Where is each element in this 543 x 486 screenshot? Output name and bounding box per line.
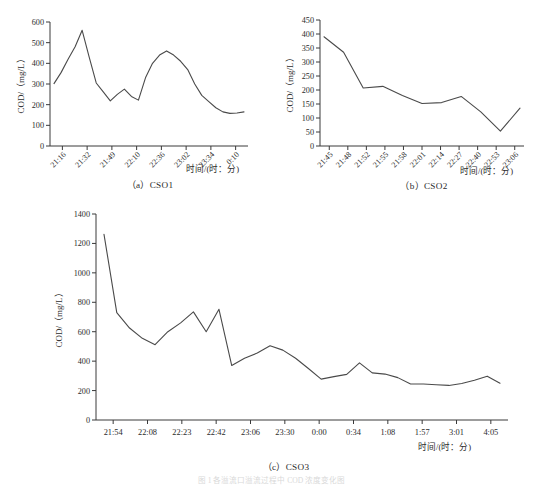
y-tick-label: 100 — [32, 121, 44, 130]
cso1-series-line — [54, 30, 244, 113]
y-tick-label: 150 — [302, 100, 314, 109]
y-tick-label: 200 — [32, 101, 44, 110]
y-tick-label: 1400 — [74, 210, 90, 219]
figure-caption: 图 1 各溢流口溢流过程中 COD 浓度变化图 — [0, 474, 543, 485]
y-tick-label: 200 — [78, 387, 90, 396]
y-tick-label: 300 — [302, 58, 314, 67]
cso3-y-axis-title: COD/（mg/L） — [54, 288, 64, 347]
cso3-y-ticks: 0200400600800100012001400 — [74, 210, 96, 425]
y-tick-label: 1200 — [74, 239, 90, 248]
cso2-caption: （b）CSO2 — [400, 181, 447, 191]
x-tick-label: 1:08 — [380, 428, 395, 437]
chart-cso2: 050100150200250300350400450 21:4521:4821… — [272, 0, 543, 196]
y-tick-label: 400 — [32, 59, 44, 68]
x-tick-label: 21:32 — [73, 150, 92, 169]
cso3-x-axis-title: 时间/(时：分) — [418, 441, 471, 452]
x-tick-label: 22:23 — [172, 428, 191, 437]
x-tick-label: 0:34 — [346, 428, 362, 437]
y-tick-label: 0 — [40, 142, 44, 151]
cso3-svg: 0200400600800100012001400 21:5422:0822:2… — [18, 198, 525, 486]
y-tick-label: 250 — [302, 72, 314, 81]
y-tick-label: 400 — [78, 357, 90, 366]
y-tick-label: 600 — [32, 18, 44, 27]
x-tick-label: 3:01 — [449, 428, 464, 437]
y-tick-label: 500 — [32, 39, 44, 48]
x-tick-label: 22:36 — [148, 150, 167, 169]
cso1-x-axis-title: 时间/(时：分) — [186, 163, 239, 174]
cso2-y-ticks: 050100150200250300350400450 — [302, 16, 320, 151]
y-tick-label: 800 — [78, 298, 90, 307]
cso1-y-axis-title: COD/（mg/L） — [16, 54, 26, 113]
x-tick-label: 21:52 — [353, 150, 372, 169]
cso2-series-line — [324, 37, 520, 131]
x-tick-label: 1:57 — [415, 428, 430, 437]
y-tick-label: 0 — [86, 416, 90, 425]
x-tick-label: 21:54 — [104, 428, 124, 437]
y-tick-label: 100 — [302, 114, 314, 123]
cso2-y-axis-title: COD/（mg/L） — [285, 53, 295, 112]
cso2-x-axis-title: 时间/(时：分) — [460, 165, 513, 176]
x-tick-label: 22:10 — [123, 150, 142, 169]
x-tick-label: 23:06 — [241, 428, 260, 437]
x-tick-label: 21:49 — [98, 150, 117, 169]
cso3-series-line — [104, 234, 500, 385]
cso1-caption: （a）CSO1 — [127, 180, 174, 190]
x-tick-label: 22:08 — [138, 428, 157, 437]
cso2-svg: 050100150200250300350400450 21:4521:4821… — [272, 0, 543, 196]
x-tick-label: 22:01 — [408, 150, 427, 169]
x-tick-label: 0:00 — [312, 428, 327, 437]
x-tick-label: 23:30 — [275, 428, 294, 437]
y-tick-label: 350 — [302, 44, 314, 53]
y-tick-label: 600 — [78, 328, 90, 337]
cso3-x-ticks: 21:5422:0822:2322:4223:0623:300:000:341:… — [104, 420, 499, 437]
x-tick-label: 21:58 — [390, 150, 409, 169]
cso1-y-ticks: 0100200300400500600 — [32, 18, 50, 151]
y-tick-label: 0 — [310, 142, 314, 151]
cso3-caption: （c）CSO3 — [263, 462, 310, 472]
cso1-svg: 0100200300400500600 21:1621:3221:4922:10… — [0, 0, 272, 196]
x-tick-label: 21:48 — [334, 150, 353, 169]
x-tick-label: 21:16 — [49, 150, 68, 169]
y-tick-label: 400 — [302, 30, 314, 39]
y-tick-label: 450 — [302, 16, 314, 25]
chart-cso1: 0100200300400500600 21:1621:3221:4922:10… — [0, 0, 272, 196]
chart-cso3: 0200400600800100012001400 21:5422:0822:2… — [18, 198, 525, 486]
x-tick-label: 21:55 — [371, 150, 390, 169]
x-tick-label: 22:42 — [207, 428, 226, 437]
x-tick-label: 4:05 — [483, 428, 498, 437]
y-tick-label: 1000 — [74, 269, 90, 278]
y-tick-label: 50 — [306, 128, 314, 137]
y-tick-label: 200 — [302, 86, 314, 95]
y-tick-label: 300 — [32, 80, 44, 89]
x-tick-label: 22:14 — [427, 150, 446, 169]
x-tick-label: 21:45 — [315, 150, 334, 169]
